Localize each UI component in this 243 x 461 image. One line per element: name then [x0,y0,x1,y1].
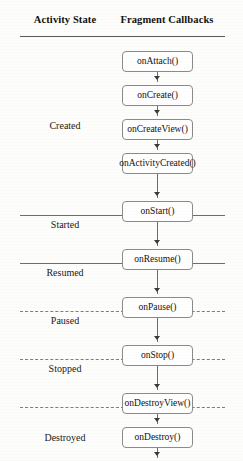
fragment-lifecycle-diagram: Activity State Fragment Callbacks Create… [0,0,243,461]
state-label-paused: Paused [18,315,112,326]
column-header-row: Activity State Fragment Callbacks [0,14,243,30]
callback-box-on-stop: onStop() [122,345,193,366]
state-label-started: Started [18,219,112,230]
callback-box-on-destroy: onDestroy() [122,427,193,448]
arrowhead-create-createview [154,110,160,114]
callback-box-on-pause: onPause() [122,297,193,318]
arrowhead-attach-create [154,76,160,80]
callback-label-on-activity-created: onActivityCreated() [119,158,196,168]
state-label-destroyed: Destroyed [18,432,112,443]
callback-box-on-activity-created: onActivityCreated() [122,153,193,174]
arrowhead-activitycreated-start [154,192,160,196]
state-label-resumed: Resumed [18,267,112,278]
state-label-stopped: Stopped [18,363,112,374]
callback-label-on-stop: onStop() [141,350,174,360]
callback-label-on-resume: onResume() [134,254,180,264]
column-header-activity-state: Activity State [18,14,112,25]
callback-box-on-resume: onResume() [122,249,193,270]
callback-label-on-start: onStart() [141,206,175,216]
arrowhead-destroy-detach [154,452,160,456]
arrowhead-destroyview-destroy [154,418,160,422]
callback-box-on-attach: onAttach() [122,51,193,72]
arrowhead-resume-pause [154,288,160,292]
callback-label-on-destroy: onDestroy() [135,432,181,442]
callback-label-on-pause: onPause() [139,302,177,312]
callback-box-on-start: onStart() [122,201,193,222]
arrowhead-start-resume [154,240,160,244]
header-rule [20,36,225,37]
arrowhead-pause-stop [154,336,160,340]
arrowhead-createview-activitycreated [154,144,160,148]
callback-label-on-destroy-view: onDestroyView() [125,398,191,408]
column-header-fragment-callbacks: Fragment Callbacks [108,14,226,25]
callback-box-on-create: onCreate() [122,85,193,106]
arrowhead-stop-destroyview [154,384,160,388]
callback-box-on-destroy-view: onDestroyView() [122,393,193,414]
callback-label-on-create: onCreate() [137,90,178,100]
state-label-created: Created [18,120,112,131]
callback-box-on-create-view: onCreateView() [122,119,193,140]
callback-label-on-attach: onAttach() [137,56,178,66]
callback-label-on-create-view: onCreateView() [127,124,188,134]
